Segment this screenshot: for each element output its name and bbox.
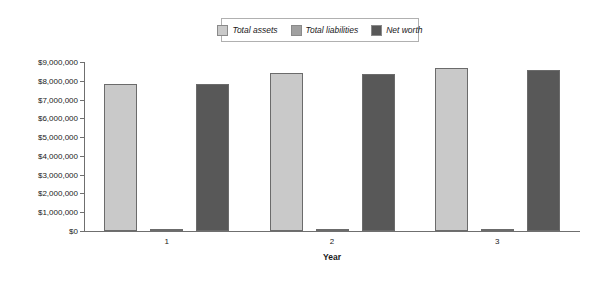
legend-swatch-total-liabilities: [291, 25, 302, 36]
x-axis-line: [84, 231, 580, 232]
y-tick-mark: [80, 156, 84, 157]
chart-legend: Total assets Total liabilities Net worth: [221, 18, 419, 42]
legend-item-total-liabilities: Total liabilities: [291, 25, 359, 36]
plot-area: $0$1,000,000$2,000,000$3,000,000$4,000,0…: [84, 62, 580, 231]
bar-total-liabilities-year-1: [150, 229, 183, 231]
y-tick-mark: [80, 212, 84, 213]
legend-swatch-total-assets: [217, 25, 228, 36]
y-tick-label: $5,000,000: [38, 133, 78, 142]
legend-item-net-worth: Net worth: [371, 25, 422, 36]
bar-total-liabilities-year-2: [316, 229, 349, 231]
y-tick-label: $4,000,000: [38, 151, 78, 160]
x-axis-title: Year: [84, 252, 580, 262]
y-tick-mark: [80, 175, 84, 176]
bar-total-assets-year-1: [104, 84, 137, 231]
y-tick-label: $0: [69, 227, 78, 236]
legend-swatch-net-worth: [371, 25, 382, 36]
legend-item-total-assets: Total assets: [217, 25, 277, 36]
y-tick-label: $6,000,000: [38, 114, 78, 123]
y-tick-label: $2,000,000: [38, 189, 78, 198]
y-tick-label: $9,000,000: [38, 58, 78, 67]
y-tick-mark: [80, 100, 84, 101]
bar-net-worth-year-2: [362, 74, 395, 231]
y-tick-label: $3,000,000: [38, 170, 78, 179]
y-tick-mark: [80, 231, 84, 232]
y-tick-mark: [80, 118, 84, 119]
legend-label-total-assets: Total assets: [232, 26, 277, 35]
x-tick-label: 1: [164, 237, 168, 246]
y-tick-label: $8,000,000: [38, 76, 78, 85]
bar-total-liabilities-year-3: [481, 229, 514, 231]
y-tick-label: $1,000,000: [38, 208, 78, 217]
x-tick-label: 3: [495, 237, 499, 246]
y-tick-label: $7,000,000: [38, 95, 78, 104]
y-tick-mark: [80, 137, 84, 138]
x-tick-label: 2: [330, 237, 334, 246]
y-tick-mark: [80, 81, 84, 82]
y-tick-mark: [80, 193, 84, 194]
bar-net-worth-year-3: [527, 70, 560, 231]
bar-total-assets-year-3: [435, 68, 468, 231]
bar-net-worth-year-1: [196, 84, 229, 231]
legend-label-net-worth: Net worth: [386, 26, 422, 35]
y-tick-mark: [80, 62, 84, 63]
legend-label-total-liabilities: Total liabilities: [306, 26, 359, 35]
bar-chart-figure: Total assets Total liabilities Net worth…: [0, 0, 612, 287]
y-axis-line: [84, 62, 85, 232]
bar-total-assets-year-2: [270, 73, 303, 231]
